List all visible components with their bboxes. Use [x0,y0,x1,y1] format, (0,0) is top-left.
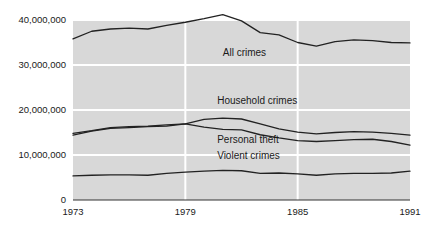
series-annotation: Household crimes [217,95,297,106]
x-tick-label: 1991 [399,206,420,217]
series-annotation: All crimes [223,47,266,58]
chart-canvas: 010,000,00020,000,00030,000,00040,000,00… [0,0,436,237]
y-tick-label: 10,000,000 [18,149,66,160]
x-tick-label: 1985 [287,206,308,217]
y-tick-label: 30,000,000 [18,59,66,70]
x-tick-label: 1979 [175,206,196,217]
series-annotation: Personal theft [217,134,279,145]
x-tick-label: 1973 [62,206,83,217]
y-tick-label: 20,000,000 [18,104,66,115]
series-annotation: Violent crimes [217,150,280,161]
y-tick-label: 40,000,000 [18,14,66,25]
crime-victimization-line-chart: 010,000,00020,000,00030,000,00040,000,00… [0,0,436,237]
y-tick-label: 0 [61,194,66,205]
